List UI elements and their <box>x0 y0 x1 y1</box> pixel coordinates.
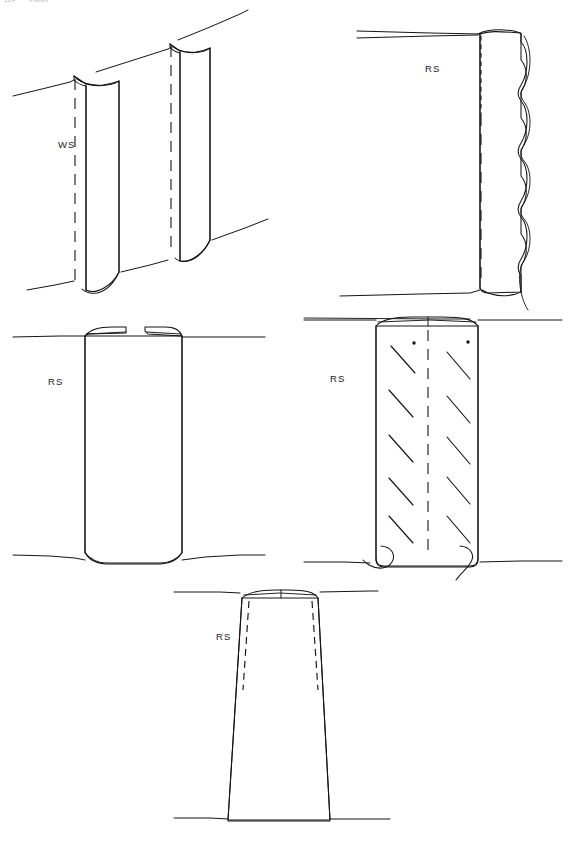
panel-5-label: RS <box>216 631 231 642</box>
panel-1-ground-line-lower-left <box>27 281 74 290</box>
panel-4-face <box>376 326 478 566</box>
panel-1-blade-front <box>74 76 119 291</box>
panel-4-dot-right <box>466 340 469 343</box>
panel-3-base-line-right <box>182 555 265 560</box>
panel-3-ground-line-left <box>13 336 85 337</box>
panel-2-label: RS <box>425 63 440 74</box>
panel-1-ground-line-lower-far <box>212 219 268 240</box>
page-header: 124Plates <box>4 0 48 3</box>
panel-3-base-line-left <box>13 555 85 560</box>
panel-4-label: RS <box>330 373 345 384</box>
panel-2-face <box>480 32 526 293</box>
panel-3-top-lip-right <box>145 327 182 336</box>
panel-5-ground-line-left <box>174 592 240 593</box>
panel-5-group: RS <box>174 590 390 821</box>
panel-1-blade-rear-left-edge <box>170 44 180 261</box>
panel-3-group: RS <box>13 327 265 564</box>
panel-1-ground-line-top <box>178 10 248 40</box>
panel-5-base-line-left <box>174 818 228 819</box>
panel-4-ground-line-overlap <box>304 318 470 319</box>
header-running-title: Plates <box>29 0 48 3</box>
panel-4-group: RS <box>304 317 562 580</box>
panel-1-ground-line-upper <box>13 80 74 96</box>
panel-5-top-lip <box>242 590 318 598</box>
panel-2-group: RS <box>340 30 530 310</box>
panel-1-blade-rear <box>170 44 210 261</box>
figure-plate: 124Plates <box>0 0 575 850</box>
panel-4-base-line-left <box>304 562 370 563</box>
panel-1-ground-line-mid <box>96 47 172 72</box>
panel-1-blade-front-left-edge <box>74 76 86 291</box>
panel-1-ground-line-lower-right <box>121 260 168 272</box>
header-page-number: 124 <box>4 0 15 3</box>
panel-1-label: WS <box>58 139 76 150</box>
panel-2-ground-line-lower <box>357 35 478 38</box>
panel-3-top-lip-left <box>85 327 126 336</box>
panel-3-face <box>85 336 182 563</box>
panel-3-label: RS <box>48 376 63 387</box>
panel-4-top-lip-crease <box>378 320 476 322</box>
figure-canvas: WS RS <box>0 0 575 850</box>
panel-5-ground-line-right <box>320 591 378 592</box>
panel-2-base-line <box>340 290 480 296</box>
panel-4-base-line-right <box>480 561 562 562</box>
panel-5-top-lip-crease <box>244 593 316 595</box>
panel-5-face <box>228 598 330 820</box>
panel-1-group: WS <box>13 10 268 293</box>
panel-4-dot-left <box>412 341 415 344</box>
